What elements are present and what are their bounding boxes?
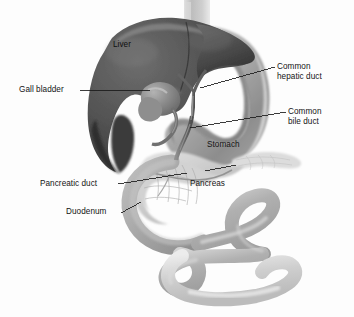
anatomy-figure: Gall bladder Liver Common hepatic duct C… xyxy=(0,0,354,317)
label-common-hepatic-duct: Common hepatic duct xyxy=(277,62,322,81)
label-common-bile-duct: Common bile duct xyxy=(288,107,322,126)
label-duodenum: Duodenum xyxy=(66,207,106,217)
label-common-hepatic-duct-line2: hepatic duct xyxy=(277,72,322,82)
label-stomach: Stomach xyxy=(207,140,240,150)
label-pancreatic-duct: Pancreatic duct xyxy=(40,179,97,189)
label-liver: Liver xyxy=(113,40,131,50)
label-common-bile-duct-line2: bile duct xyxy=(288,117,322,127)
label-gall-bladder: Gall bladder xyxy=(19,85,64,95)
label-pancreas: Pancreas xyxy=(190,179,225,189)
label-common-bile-duct-line1: Common xyxy=(288,107,322,117)
label-common-hepatic-duct-line1: Common xyxy=(277,62,322,72)
anatomy-illustration xyxy=(0,0,354,317)
